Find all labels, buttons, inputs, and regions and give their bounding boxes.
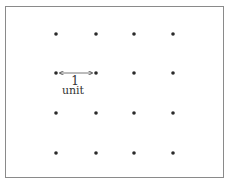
lattice-dot <box>171 71 175 75</box>
lattice-dot <box>54 111 58 115</box>
lattice-dot <box>54 151 58 155</box>
lattice-dot <box>132 151 136 155</box>
lattice-dot <box>171 32 175 36</box>
lattice-dot <box>132 111 136 115</box>
lattice-dot <box>94 32 98 36</box>
dot-lattice: 1 unit <box>0 0 230 183</box>
unit-text-label: unit <box>62 84 85 97</box>
lattice-dot <box>54 71 58 75</box>
lattice-dot <box>94 71 98 75</box>
lattice-dot <box>94 111 98 115</box>
lattice-dot <box>94 151 98 155</box>
lattice-dot <box>54 32 58 36</box>
lattice-dot <box>132 71 136 75</box>
lattice-dot <box>171 151 175 155</box>
lattice-dot <box>171 111 175 115</box>
lattice-dot <box>132 32 136 36</box>
